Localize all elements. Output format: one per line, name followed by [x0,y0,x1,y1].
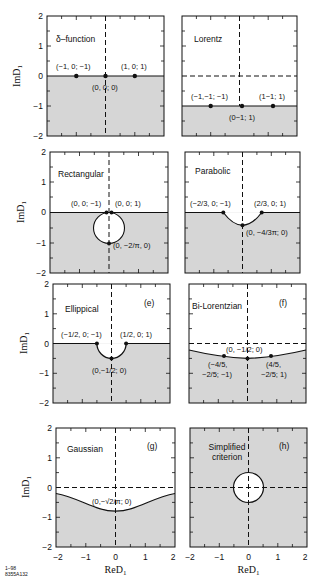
footer-code: 8355A132 [5,571,28,577]
point-2 [110,211,114,215]
point-3-label: (0, −4/3π; 0) [246,228,288,237]
x-axis-label: ReD1 [105,564,127,577]
svg-text:0: 0 [41,207,46,217]
y-tick-labels: 2 1 0 −1 −2 [36,147,46,278]
point-3 [269,354,273,358]
point-3-label: (1−1; 1) [259,92,286,101]
panel-tag: (g) [147,441,158,451]
point-2 [260,211,264,215]
panel-tag: (h) [279,441,290,451]
svg-text:1: 1 [143,552,148,562]
point-2 [246,356,250,360]
x-axis-label: ReD1 [238,564,260,577]
point-1 [221,211,225,215]
panel-h-simplified-criterion: Simplified criterion (h) −2 −1 0 1 2 ReD… [185,428,307,577]
svg-text:−2: −2 [36,268,46,278]
panel-f-bi-lorentzian: Bi-Lorentzian (f) (0, −1/2; 0) (−4/5, −2… [189,284,306,403]
svg-text:−1: −1 [214,552,224,562]
svg-text:0: 0 [246,552,251,562]
point-3 [110,356,114,360]
panel-title: Rectangular [58,169,104,179]
y-tick-labels: 2 1 0 −1 −2 [42,423,52,552]
panel-c-rectangular: Rectangular (0, 0; −1) (0, 0; 1) (0, −2/… [15,147,168,278]
point-1-label: (−1,−1; −1) [191,92,228,101]
svg-text:−2: −2 [53,552,63,562]
point-3 [271,104,275,108]
svg-text:0: 0 [38,71,43,81]
point-2-label: (0, 0; 0) [92,83,118,92]
point-1 [222,354,226,358]
point-1-label: (0, 0; −1) [71,199,102,208]
panel-title: Parabolic [195,166,231,176]
panel-e-elliptical: Ellippical (e) (−1/2, 0; −1) (1/2, 0; 1)… [18,279,170,408]
panel-g-gaussian: Gaussian (g) (0,−√2/π; 0) 2 1 0 −1 −2 −2… [20,423,176,577]
panel-d-parabolic: Parabolic (−2/3, 0; −1) (2/3, 0; 1) (0, … [185,152,300,273]
point-3-label-b: −2/5; 1) [261,370,287,379]
svg-text:1: 1 [275,552,280,562]
point-3-label: (0,−1/2; 0) [92,366,127,375]
y-axis-label: ImD1 [15,201,28,223]
svg-text:−2: −2 [42,542,52,552]
panel-title: Lorentz [194,34,222,44]
panel-b-lorentz: Lorentz (−1,−1; −1) (0−1; 1) (1−1; 1) [182,16,297,136]
y-axis-label: ImD1 [20,476,33,498]
svg-text:−1: −1 [36,238,46,248]
point-3 [107,242,111,246]
figure: δ–function (−1, 0; −1) (0, 0; 0) (1, 0; … [0,0,320,585]
svg-text:2: 2 [47,423,52,433]
svg-text:1: 1 [44,309,49,319]
y-tick-labels: 2 1 0 −1 −2 [39,279,49,408]
panel-tag: (e) [144,298,155,308]
y-axis-label: ImD1 [18,332,31,354]
point-1 [105,211,109,215]
point-3-label: (0, −2/π, 0) [113,241,151,250]
svg-text:0: 0 [113,552,118,562]
x-tick-labels: −2 −1 0 1 2 [53,552,175,562]
svg-text:2: 2 [44,279,49,289]
point-2-label: (0−1; 1) [229,113,256,122]
panel-title: Ellippical [65,304,99,314]
point-1-label-b: −2/5; −1) [202,370,233,379]
point-2-label: (1/2, 0; 1) [120,330,153,339]
svg-text:2: 2 [38,11,43,21]
point-1-label: (−2/3, 0; −1) [190,199,231,208]
svg-text:1: 1 [38,41,43,51]
panel-title: Gaussian [67,444,103,454]
point-3 [133,74,137,78]
x-tick-labels: −2 −1 0 1 2 [185,552,307,562]
y-axis-label: ImD1 [11,65,24,87]
svg-text:−1: −1 [33,101,43,111]
point-2 [240,104,244,108]
point-1 [95,342,99,346]
svg-text:−2: −2 [39,398,49,408]
panel-title: Bi-Lorentzian [192,301,242,311]
svg-text:1: 1 [47,453,52,463]
svg-text:−1: −1 [39,368,49,378]
svg-text:−1: −1 [42,512,52,522]
point-2-label: (0, −1/2; 0) [226,345,263,354]
svg-text:2: 2 [303,552,308,562]
point-1-label: (−1, 0; −1) [56,62,91,71]
panel-title-line1: Simplified [209,442,246,452]
svg-text:0: 0 [44,339,49,349]
svg-text:−2: −2 [33,131,43,141]
point-2 [124,342,128,346]
panel-title: δ–function [56,34,96,44]
svg-text:1: 1 [41,177,46,187]
point-2-label: (0, 0; 1) [115,199,141,208]
point-1-label-a: (−4/5, [208,360,227,369]
point-2 [103,74,107,78]
panel-title-line2: criterion [212,452,243,462]
point-1-label: (−1/2, 0; −1) [61,330,102,339]
point-3 [241,223,245,227]
point-1 [209,104,213,108]
svg-text:−2: −2 [185,552,195,562]
point-3-label: (1, 0; 1) [121,62,147,71]
point-1 [74,74,78,78]
point-3-label-a: (4/5, [266,360,281,369]
panel-a-delta-function: δ–function (−1, 0; −1) (0, 0; 0) (1, 0; … [11,11,164,141]
svg-text:−1: −1 [81,552,91,562]
point-2-label: (2/3, 0; 1) [254,199,287,208]
panel-tag: (f) [279,298,287,308]
svg-text:0: 0 [47,483,52,493]
